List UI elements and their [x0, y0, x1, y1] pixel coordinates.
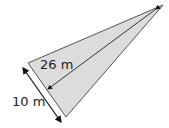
triangle-diagram: 26 m 10 m — [0, 0, 169, 128]
base-label: 10 m — [12, 94, 45, 109]
height-label: 26 m — [40, 57, 73, 72]
